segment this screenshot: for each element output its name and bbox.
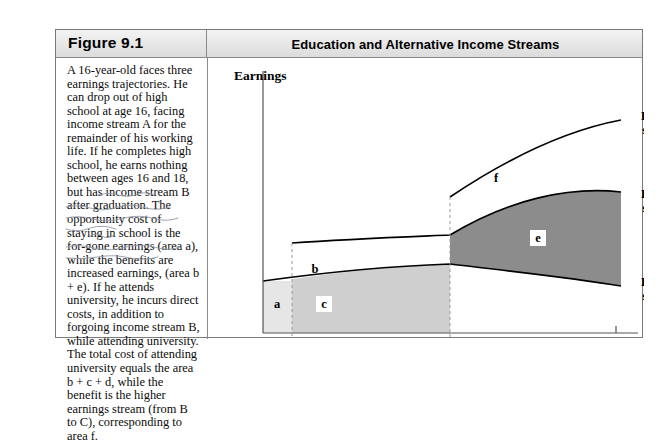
region-f-label: f: [494, 171, 499, 185]
stream-b-label-line2: stream: [642, 201, 644, 215]
x-tick-22: 22: [444, 337, 457, 339]
y-axis-label: Earnings: [234, 68, 287, 83]
stream-a-label-line1: Income: [641, 275, 644, 289]
x-tick-16: 16: [257, 337, 271, 339]
x-tick-18: 18: [287, 337, 301, 339]
figure-number: Figure 9.1: [68, 34, 143, 52]
stream-c-label-line2: stream: [642, 123, 644, 137]
region-e-label: e: [535, 231, 541, 245]
figure-container: Figure 9.1 Education and Alternative Inc…: [55, 29, 643, 338]
stream-b-label-line1: Income: [641, 187, 644, 201]
region-c-label: c: [321, 297, 327, 311]
curve-income-stream-c: [450, 120, 621, 197]
region-b-label: b: [312, 262, 319, 276]
earnings-chart: Earnings Age 16 18 22 T a b c d e f Dire…: [208, 58, 644, 339]
figure-number-cell: Figure 9.1: [56, 30, 207, 57]
x-tick-T: T: [612, 337, 621, 339]
caption-text: A 16-year-old faces three earnings traje…: [67, 64, 200, 443]
figure-title: Education and Alternative Income Streams: [207, 30, 644, 58]
figure-header: Figure 9.1 Education and Alternative Inc…: [56, 30, 642, 58]
direct-costs-box: [292, 333, 450, 339]
stream-c-label-line1: Income: [641, 109, 644, 123]
stream-a-label-line2: stream: [642, 289, 644, 303]
region-a-label: a: [274, 297, 281, 311]
